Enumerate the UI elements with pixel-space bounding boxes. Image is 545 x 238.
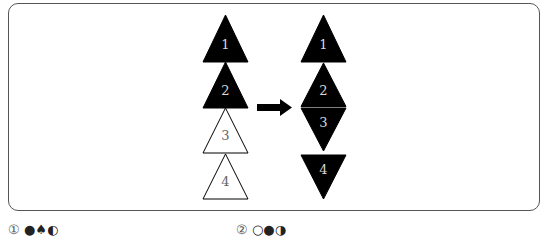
figure: 1 2 3 4 1 2 3 4 — [0, 0, 545, 215]
arrow-right-icon — [257, 99, 292, 116]
right-triangle-1-label: 1 — [314, 38, 334, 52]
triangle-diagram — [0, 0, 545, 215]
option-1-number: ① — [8, 222, 20, 237]
right-triangle-2-label: 2 — [314, 84, 334, 98]
right-triangle-3-label: 3 — [314, 116, 334, 130]
left-triangle-3-label: 3 — [216, 129, 236, 143]
right-triangle-4-label: 4 — [314, 163, 334, 177]
option-1[interactable]: ①●♠◐ — [8, 222, 58, 238]
option-2-number: ② — [236, 222, 248, 237]
left-triangle-4-label: 4 — [216, 175, 236, 189]
answer-options: ①●♠◐ ②○●◑ — [0, 222, 545, 238]
left-triangle-1-label: 1 — [216, 38, 236, 52]
option-2[interactable]: ②○●◑ — [236, 222, 286, 238]
left-triangle-2-label: 2 — [216, 84, 236, 98]
option-1-symbols: ●♠◐ — [24, 222, 58, 237]
option-2-symbols: ○●◑ — [252, 222, 286, 237]
